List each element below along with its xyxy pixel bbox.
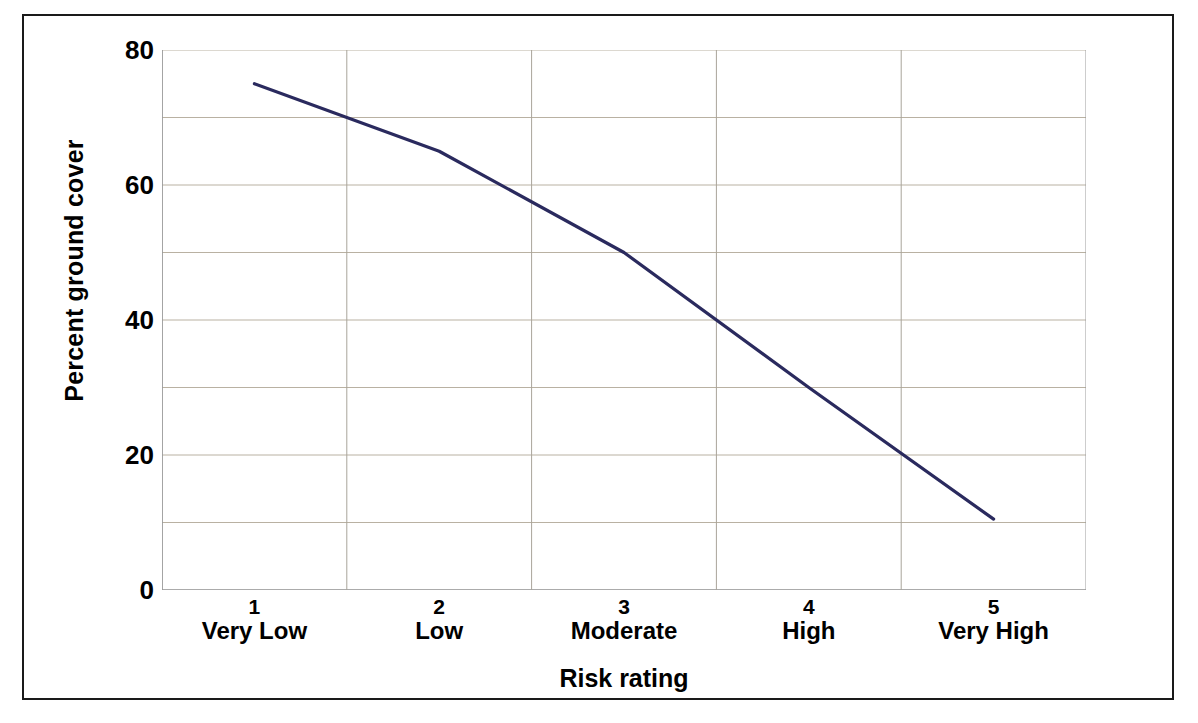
x-tick-name-5: Very High bbox=[901, 618, 1086, 644]
x-axis-title: Risk rating bbox=[162, 664, 1086, 693]
x-tick-group-5: 5 Very High bbox=[901, 596, 1086, 666]
x-tick-number-3: 3 bbox=[532, 596, 717, 618]
x-tick-group-1: 1 Very Low bbox=[162, 596, 347, 666]
x-tick-number-1: 1 bbox=[162, 596, 347, 618]
gridlines bbox=[162, 50, 1086, 590]
y-tick-label-0: 0 bbox=[84, 577, 154, 603]
data-series-line bbox=[254, 84, 993, 519]
x-tick-name-3: Moderate bbox=[532, 618, 717, 644]
y-tick-label-40: 40 bbox=[84, 307, 154, 333]
x-tick-name-4: High bbox=[716, 618, 901, 644]
line-chart-svg bbox=[162, 50, 1086, 590]
x-tick-number-2: 2 bbox=[347, 596, 532, 618]
y-tick-label-80: 80 bbox=[84, 37, 154, 63]
x-tick-name-2: Low bbox=[347, 618, 532, 644]
x-tick-number-5: 5 bbox=[901, 596, 1086, 618]
x-tick-name-1: Very Low bbox=[162, 618, 347, 644]
y-tick-label-20: 20 bbox=[84, 442, 154, 468]
plot-area bbox=[162, 50, 1086, 590]
y-axis-tick-labels: 80 60 40 20 0 bbox=[74, 50, 154, 590]
y-tick-label-60: 60 bbox=[84, 172, 154, 198]
x-axis-tick-labels: 1 Very Low 2 Low 3 Moderate 4 High 5 Ver… bbox=[162, 596, 1086, 666]
x-tick-group-4: 4 High bbox=[716, 596, 901, 666]
x-tick-group-3: 3 Moderate bbox=[532, 596, 717, 666]
x-tick-group-2: 2 Low bbox=[347, 596, 532, 666]
x-tick-number-4: 4 bbox=[716, 596, 901, 618]
chart-figure-frame: Percent ground cover 80 60 40 20 0 1 Ver… bbox=[22, 14, 1174, 700]
